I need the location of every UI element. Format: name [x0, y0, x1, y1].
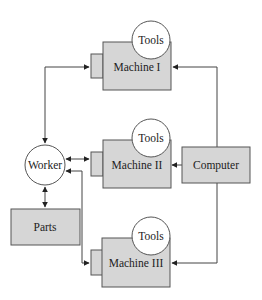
parts-label: Parts — [34, 221, 58, 233]
machine-1-tools-label: Tools — [138, 34, 164, 46]
machine-3-label: Machine III — [109, 257, 164, 269]
machine-2-label: Machine II — [112, 159, 163, 171]
machine-2-node: Tools Machine II — [91, 119, 171, 188]
diagram-canvas: Tools Machine I Tools Machine II Tools M… — [0, 0, 262, 300]
machine-1-tab — [91, 54, 103, 78]
edge-computer-machine3 — [172, 183, 217, 263]
machine-2-tools-label: Tools — [138, 132, 164, 144]
edge-worker-machine1 — [45, 67, 89, 143]
parts-node: Parts — [11, 209, 80, 245]
edge-computer-machine1 — [173, 67, 217, 147]
worker-label: Worker — [28, 159, 62, 171]
machine-3-tools-label: Tools — [138, 230, 164, 242]
machine-1-node: Tools Machine I — [91, 21, 171, 90]
machine-1-label: Machine I — [114, 61, 161, 73]
machine-3-tab — [91, 250, 103, 275]
computer-node: Computer — [182, 147, 250, 183]
worker-node: Worker — [25, 145, 65, 185]
machine-3-node: Tools Machine III — [91, 217, 170, 287]
machine-2-tab — [91, 152, 103, 176]
computer-label: Computer — [193, 159, 239, 172]
